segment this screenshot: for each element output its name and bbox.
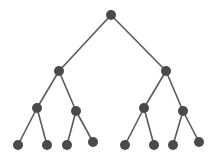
internal-node xyxy=(161,66,171,76)
tree-edge xyxy=(37,71,59,108)
tree-edge xyxy=(183,111,199,142)
tree-edge xyxy=(125,108,144,145)
leaf-node xyxy=(168,140,178,150)
tree-edge xyxy=(37,108,47,145)
tree-edge xyxy=(59,15,111,71)
tree-edge xyxy=(144,71,166,108)
tree-edge xyxy=(144,108,154,145)
leaf-node xyxy=(42,140,52,150)
leaf-node xyxy=(62,140,72,150)
internal-node xyxy=(32,103,42,113)
leaf-node xyxy=(149,140,159,150)
internal-node xyxy=(71,106,81,116)
tree-edge xyxy=(111,15,166,71)
tree-nodes xyxy=(13,10,204,150)
root-node xyxy=(106,10,116,20)
leaf-node xyxy=(88,137,98,147)
tree-edge xyxy=(59,71,76,111)
tree-diagram xyxy=(0,0,218,158)
tree-edge xyxy=(18,108,37,145)
tree-edge xyxy=(76,111,93,142)
tree-edge xyxy=(67,111,76,145)
leaf-node xyxy=(120,140,130,150)
internal-node xyxy=(178,106,188,116)
tree-edge xyxy=(173,111,183,145)
tree-edges xyxy=(18,15,199,145)
internal-node xyxy=(139,103,149,113)
internal-node xyxy=(54,66,64,76)
tree-edge xyxy=(166,71,183,111)
leaf-node xyxy=(194,137,204,147)
leaf-node xyxy=(13,140,23,150)
